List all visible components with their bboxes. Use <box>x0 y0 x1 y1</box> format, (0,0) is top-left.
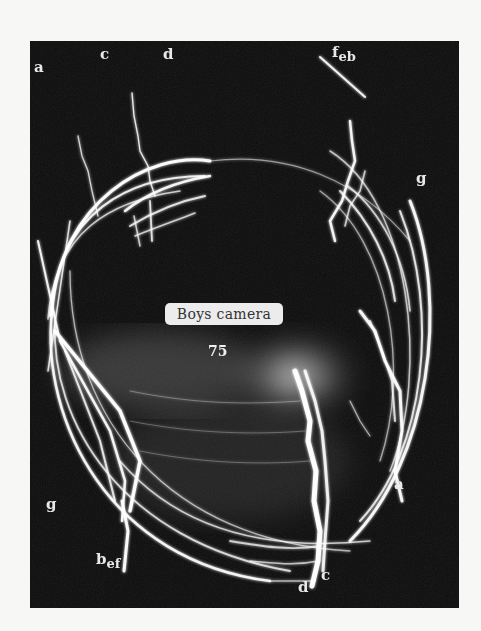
plate-number: 75 <box>208 343 227 359</box>
label-feb-sub-b: b <box>347 49 356 64</box>
label-bef-sub-f: f <box>115 556 121 571</box>
label-feb-sub-e: e <box>338 49 346 64</box>
label-g-right: g <box>416 171 427 186</box>
label-feb-top: feb <box>332 45 356 63</box>
label-bef-bottom: bef <box>96 552 120 570</box>
lightning-photograph: a c d feb g a g bef d c Boys camera 75 <box>30 41 459 608</box>
camera-caption-label: Boys camera <box>165 303 283 325</box>
label-bef-main: b <box>96 550 107 568</box>
label-a-right: a <box>394 477 404 492</box>
label-d-top: d <box>163 47 174 62</box>
label-bef-sub-e: e <box>107 556 115 571</box>
label-c-bottom: c <box>321 568 330 583</box>
label-g-left: g <box>46 497 57 512</box>
label-a-top: a <box>34 60 44 75</box>
label-c-top: c <box>100 47 109 62</box>
label-d-bottom: d <box>298 580 309 595</box>
